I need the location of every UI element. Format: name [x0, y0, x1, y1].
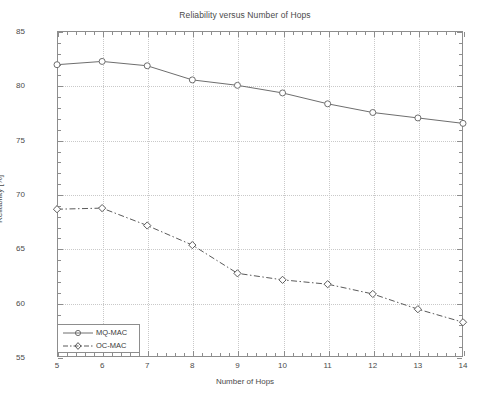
x-axis-minor-tick [67, 353, 68, 356]
legend-item-1: OC-MAC [58, 339, 139, 353]
y-axis-tick [457, 249, 462, 250]
x-axis-tick-label: 7 [132, 361, 162, 370]
x-axis-minor-tick [437, 353, 438, 356]
x-axis-tick-label: 12 [358, 361, 388, 370]
y-axis-minor-tick [58, 293, 61, 294]
x-axis-tick [464, 351, 465, 356]
y-axis-minor-tick [58, 75, 61, 76]
y-axis-tick [58, 141, 63, 142]
x-axis-tick-label: 6 [87, 361, 117, 370]
y-axis-minor-tick [58, 108, 61, 109]
y-axis-tick-label: 80 [0, 81, 25, 90]
y-axis-minor-tick [459, 119, 462, 120]
y-axis-minor-tick [58, 65, 61, 66]
x-axis-minor-tick [211, 353, 212, 356]
gridline-horizontal [58, 304, 462, 305]
y-axis-minor-tick [459, 152, 462, 153]
y-axis-minor-tick [459, 162, 462, 163]
legend-sample-mq-mac [62, 326, 94, 340]
y-axis-minor-tick [58, 130, 61, 131]
x-axis-tick [193, 32, 194, 37]
x-axis-minor-tick [356, 32, 357, 35]
x-axis-minor-tick [220, 32, 221, 35]
x-axis-minor-tick [175, 32, 176, 35]
y-axis-minor-tick [459, 315, 462, 316]
x-axis-minor-tick [410, 32, 411, 35]
y-axis-tick [457, 86, 462, 87]
x-axis-minor-tick [175, 353, 176, 356]
y-axis-minor-tick [58, 162, 61, 163]
gridline-vertical [238, 32, 239, 356]
x-axis-tick-label: 14 [448, 361, 478, 370]
x-axis-minor-tick [455, 353, 456, 356]
x-axis-minor-tick [410, 353, 411, 356]
x-axis-minor-tick [184, 32, 185, 35]
chart-figure: Reliability versus Number of Hops 556065… [0, 0, 490, 399]
x-axis-minor-tick [455, 32, 456, 35]
x-axis-tick [374, 32, 375, 37]
y-axis-tick [457, 304, 462, 305]
x-axis-minor-tick [76, 353, 77, 356]
x-axis-minor-tick [338, 353, 339, 356]
gridline-horizontal [58, 86, 462, 87]
legend-label-oc-mac: OC-MAC [96, 339, 126, 353]
x-axis-minor-tick [293, 32, 294, 35]
y-axis-minor-tick [459, 325, 462, 326]
x-axis-minor-tick [202, 353, 203, 356]
y-axis-minor-tick [58, 206, 61, 207]
x-axis-tick-label: 13 [403, 361, 433, 370]
gridline-vertical [193, 32, 194, 356]
x-axis-minor-tick [229, 32, 230, 35]
x-axis-tick-label: 5 [42, 361, 72, 370]
gridline-vertical [419, 32, 420, 356]
y-axis-minor-tick [459, 43, 462, 44]
x-axis-minor-tick [338, 32, 339, 35]
x-axis-minor-tick [166, 32, 167, 35]
y-axis-minor-tick [459, 347, 462, 348]
x-axis-minor-tick [76, 32, 77, 35]
y-axis-minor-tick [459, 238, 462, 239]
x-axis-tick [103, 32, 104, 37]
x-axis-minor-tick [67, 32, 68, 35]
y-axis-tick [58, 304, 63, 305]
x-axis-tick [148, 32, 149, 37]
x-axis-minor-tick [275, 32, 276, 35]
y-axis-tick [58, 86, 63, 87]
x-axis-tick [284, 32, 285, 37]
gridline-vertical [148, 32, 149, 356]
gridline-vertical [374, 32, 375, 356]
gridline-horizontal [58, 141, 462, 142]
x-axis-tick [329, 32, 330, 37]
x-axis-tick [284, 351, 285, 356]
y-axis-tick-label: 60 [0, 298, 25, 307]
y-axis-minor-tick [58, 228, 61, 229]
legend: MQ-MAC OC-MAC [57, 324, 140, 353]
x-axis-minor-tick [320, 32, 321, 35]
y-axis-minor-tick [459, 130, 462, 131]
x-axis-minor-tick [85, 32, 86, 35]
gridline-horizontal [58, 195, 462, 196]
y-axis-minor-tick [58, 43, 61, 44]
y-axis-minor-tick [459, 336, 462, 337]
x-axis-tick [419, 32, 420, 37]
x-axis-minor-tick [347, 32, 348, 35]
y-axis-minor-tick [459, 184, 462, 185]
y-axis-minor-tick [58, 217, 61, 218]
y-axis-minor-tick [58, 282, 61, 283]
x-axis-minor-tick [428, 32, 429, 35]
x-axis-minor-tick [256, 353, 257, 356]
x-axis-minor-tick [266, 353, 267, 356]
x-axis-minor-tick [446, 32, 447, 35]
x-axis-minor-tick [247, 32, 248, 35]
y-axis-minor-tick [459, 271, 462, 272]
legend-item-0: MQ-MAC [58, 326, 139, 340]
x-axis-minor-tick [275, 353, 276, 356]
x-axis-minor-tick [130, 353, 131, 356]
x-axis-minor-tick [85, 353, 86, 356]
x-axis-minor-tick [202, 32, 203, 35]
y-axis-minor-tick [459, 75, 462, 76]
x-axis-tick [238, 32, 239, 37]
y-axis-tick-label: 70 [0, 190, 25, 199]
y-axis-minor-tick [58, 119, 61, 120]
y-axis-tick [58, 358, 63, 359]
